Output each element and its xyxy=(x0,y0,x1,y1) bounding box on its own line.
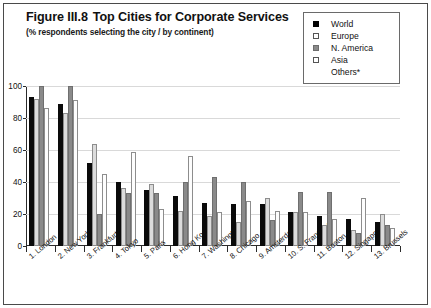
bar-group-bars xyxy=(87,86,107,246)
plot-area: 0204060801001. London2. New York3. Frank… xyxy=(26,86,400,246)
bar-group xyxy=(29,86,49,246)
figure-subtitle: (% respondents selecting the city / by c… xyxy=(26,27,306,37)
legend-item: Europe xyxy=(304,30,399,42)
x-tick-mark xyxy=(199,246,200,252)
legend-item-label: N. America xyxy=(331,43,373,53)
bar-group xyxy=(116,86,136,246)
bar-group xyxy=(87,86,107,246)
x-tick-mark xyxy=(400,246,401,252)
bar-group-bars xyxy=(375,86,395,246)
y-axis-tick-label: 100 xyxy=(8,82,22,91)
x-tick-mark xyxy=(285,246,286,252)
bar-group xyxy=(231,86,251,246)
x-tick-mark xyxy=(55,246,56,252)
bar-group-bars xyxy=(173,86,193,246)
legend-item: World xyxy=(304,18,399,30)
bar-group xyxy=(260,86,280,246)
bar-group xyxy=(317,86,337,246)
bar-group xyxy=(58,86,78,246)
bar xyxy=(73,100,78,246)
legend-item-label: World xyxy=(331,19,353,29)
bar-group-bars xyxy=(116,86,136,246)
bar-group-bars xyxy=(317,86,337,246)
legend-item-label: Asia xyxy=(331,55,348,65)
bar-group xyxy=(288,86,308,246)
bar-group xyxy=(173,86,193,246)
x-tick-mark xyxy=(256,246,257,252)
bar-group xyxy=(202,86,222,246)
black-square-icon xyxy=(313,21,319,27)
y-axis-tick-label: 0 xyxy=(17,242,22,251)
plot-frame: 0204060801001. London2. New York3. Frank… xyxy=(26,86,400,246)
x-tick-mark xyxy=(26,246,27,252)
x-tick-mark xyxy=(371,246,372,252)
legend-item-label: Europe xyxy=(331,31,359,41)
x-tick-mark xyxy=(112,246,113,252)
x-tick-mark xyxy=(314,246,315,252)
bar xyxy=(188,156,193,246)
y-axis-line xyxy=(26,86,27,246)
y-tick-mark xyxy=(23,214,26,215)
figure-title-text: Top Cities for Corporate Services xyxy=(93,10,289,24)
x-tick-mark xyxy=(84,246,85,252)
chart-legend: WorldEuropeN. AmericaAsiaOthers* xyxy=(303,12,400,84)
bar-group-bars xyxy=(58,86,78,246)
bar-group-bars xyxy=(144,86,164,246)
y-tick-mark xyxy=(23,118,26,119)
legend-item: Asia xyxy=(304,54,399,66)
y-tick-mark xyxy=(23,150,26,151)
bar xyxy=(131,152,136,246)
y-tick-mark xyxy=(23,182,26,183)
figure-number: Figure III.8 xyxy=(26,10,88,24)
figure-container: Figure III.8Top Cities for Corporate Ser… xyxy=(0,0,431,308)
y-axis-tick-label: 40 xyxy=(13,178,22,187)
bar-group-bars xyxy=(346,86,366,246)
x-tick-mark xyxy=(227,246,228,252)
legend-item: N. America xyxy=(304,42,399,54)
figure-title: Figure III.8Top Cities for Corporate Ser… xyxy=(26,10,306,24)
bar-group xyxy=(375,86,395,246)
y-axis-tick-label: 60 xyxy=(13,146,22,155)
bar-group-bars xyxy=(29,86,49,246)
white-square-icon xyxy=(313,57,319,63)
bar xyxy=(44,108,49,246)
x-tick-mark xyxy=(141,246,142,252)
bar-group-bars xyxy=(288,86,308,246)
y-tick-mark xyxy=(23,86,26,87)
white-square-icon xyxy=(313,33,319,39)
legend-footnote-label: Others* xyxy=(331,67,360,77)
x-tick-mark xyxy=(342,246,343,252)
bar-group-bars xyxy=(202,86,222,246)
y-axis-tick-label: 20 xyxy=(13,210,22,219)
bar-group xyxy=(144,86,164,246)
bar-group-bars xyxy=(231,86,251,246)
legend-footnote-row: Others* xyxy=(304,66,399,78)
title-block: Figure III.8Top Cities for Corporate Ser… xyxy=(26,10,306,37)
bar-group xyxy=(346,86,366,246)
y-axis-tick-label: 80 xyxy=(13,114,22,123)
x-tick-mark xyxy=(170,246,171,252)
bar-group-bars xyxy=(260,86,280,246)
gray-square-icon xyxy=(313,45,319,51)
